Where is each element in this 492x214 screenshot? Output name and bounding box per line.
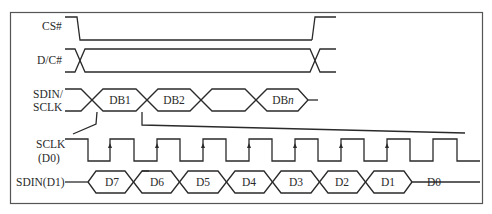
rising-edge-arrow xyxy=(108,143,112,148)
sdin-d1-label: SDIN(D1) xyxy=(16,176,65,189)
byte-db2: DB2 xyxy=(163,94,185,106)
rising-edge-arrow xyxy=(339,143,343,148)
dc-waveform xyxy=(65,49,336,72)
bit-d4: D4 xyxy=(242,176,256,188)
bit-d7: D7 xyxy=(105,176,119,188)
bit-bus-waveform xyxy=(65,171,480,193)
cs-waveform-rise xyxy=(312,17,336,40)
sdin-sclk-label-line2: SCLK xyxy=(33,101,63,113)
bit-d5: D5 xyxy=(196,176,210,188)
rising-edge-arrow xyxy=(293,143,297,148)
sclk-label-line2: (D0) xyxy=(38,152,60,165)
cs-waveform-low xyxy=(65,17,312,40)
zoom-line-left xyxy=(73,112,97,134)
sdin-sclk-label-line1: SDIN/ xyxy=(33,88,64,100)
sclk-label-line1: SCLK xyxy=(36,138,66,150)
rising-edge-arrow xyxy=(201,143,205,148)
byte-dbn: DBn xyxy=(272,94,294,106)
rising-edge-arrow xyxy=(247,143,251,148)
bit-d6: D6 xyxy=(150,176,164,188)
timing-diagram: CS# D/C# SDIN/ SCLK SCLK (D0) SDIN(D1) D… xyxy=(0,0,492,214)
bit-d1: D1 xyxy=(381,176,395,188)
byte-db1: DB1 xyxy=(109,94,131,106)
bit-d3: D3 xyxy=(289,176,303,188)
diagram-frame xyxy=(11,13,483,204)
cs-label: CS# xyxy=(42,20,62,32)
dc-label: D/C# xyxy=(37,54,62,66)
zoom-line-right xyxy=(142,112,465,133)
rising-edge-arrow xyxy=(385,143,389,148)
bit-d0: D0 xyxy=(427,176,441,188)
sclk-waveform xyxy=(65,139,480,161)
bit-d2: D2 xyxy=(335,176,349,188)
rising-edge-arrow xyxy=(155,143,159,148)
